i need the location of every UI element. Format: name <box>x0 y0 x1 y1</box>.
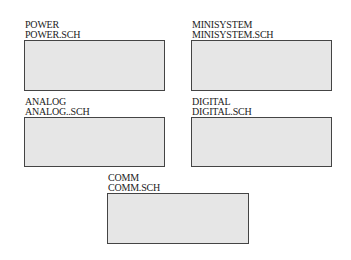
sheet-box[interactable] <box>24 40 165 91</box>
sheet-box[interactable] <box>24 117 165 167</box>
sheet-filename: MINISYSTEM.SCH <box>192 30 273 40</box>
sheet-filename: DIGITAL.SCH <box>192 107 252 117</box>
sheet-filename: ANALOG..SCH <box>25 107 89 117</box>
sheet-filename: COMM.SCH <box>108 183 160 193</box>
sheet-box[interactable] <box>191 40 332 91</box>
sheet-box[interactable] <box>191 117 332 167</box>
sheet-filename: POWER.SCH <box>25 30 80 40</box>
sheet-box[interactable] <box>107 193 249 244</box>
